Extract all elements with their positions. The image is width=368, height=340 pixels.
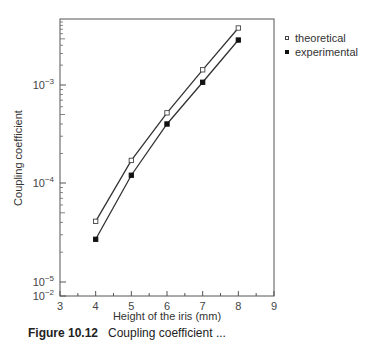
open-square-marker (93, 219, 97, 223)
filled-square-marker (236, 38, 240, 42)
legend-item-theoretical: theoretical (285, 31, 358, 45)
x-tick-label: 9 (271, 300, 277, 312)
axis-ticks: 345678910−210−310−410−5 (33, 22, 277, 312)
filled-square-marker (93, 237, 97, 241)
legend: theoretical experimental (285, 31, 358, 59)
filled-square-marker (129, 173, 133, 177)
open-square-marker (129, 158, 133, 162)
x-tick-label: 3 (57, 300, 63, 312)
open-square-marker (200, 68, 204, 72)
figure-caption: Figure 10.12Coupling coefficient ... (28, 326, 226, 340)
x-tick-label: 4 (93, 300, 99, 312)
open-square-marker (165, 111, 169, 115)
open-square-icon (285, 36, 289, 40)
caption-text: Coupling coefficient ... (108, 326, 226, 340)
filled-square-icon (285, 50, 289, 54)
open-square-marker (236, 26, 240, 30)
y-tick-label: 10−5 (33, 274, 55, 288)
x-axis-label: Height of the iris (mm) (113, 310, 221, 322)
axes-frame (60, 19, 274, 296)
legend-item-experimental: experimental (285, 45, 358, 59)
data-series (93, 26, 240, 242)
legend-label: experimental (295, 45, 358, 59)
filled-square-marker (165, 122, 169, 126)
experimental-line (96, 40, 239, 239)
filled-square-marker (200, 80, 204, 84)
x-tick-label: 8 (235, 300, 241, 312)
figure-number: Figure 10.12 (28, 326, 98, 340)
y-axis-label: Coupling coefficient (12, 110, 24, 206)
y-tick-label: 10−4 (33, 175, 55, 189)
legend-label: theoretical (295, 31, 346, 45)
y-tick-label: 10−2 (33, 288, 55, 302)
y-tick-label: 10−3 (33, 77, 55, 91)
